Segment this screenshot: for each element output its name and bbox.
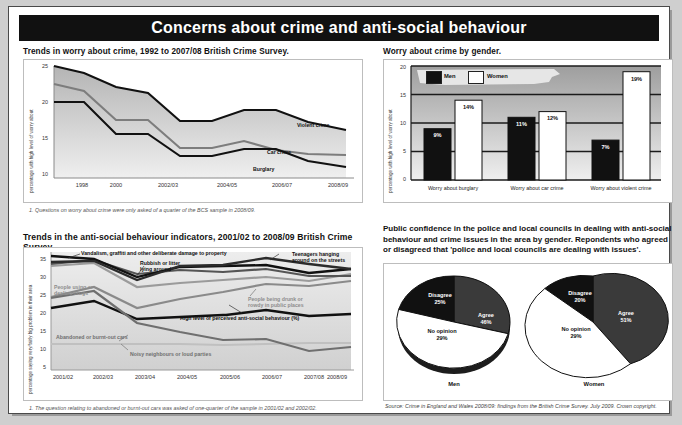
x-tick: 2000	[98, 182, 134, 188]
worry-trends-panel: percentage with high level of worry abou…	[23, 59, 363, 203]
pie-women-disagree-value: 20%	[574, 297, 585, 303]
pie-men-no-opinion-name: No opinion	[427, 328, 456, 334]
worry-trends-footnote: 1. Questions on worry about crime were o…	[29, 207, 359, 213]
series-label-rubbish: Rubbish or litter lying around	[140, 260, 190, 273]
worry-gender-panel: percentage with high level of worry abou…	[383, 59, 673, 203]
series-label-noisy-neighbours: Noisy neighbours or loud parties	[130, 351, 211, 357]
page-title: Concerns about crime and anti-social beh…	[19, 15, 659, 41]
series-label-car-crime: Car crime	[267, 149, 291, 155]
series-label-violent-crime: Violent crime	[297, 122, 329, 128]
infographic-card: Concerns about crime and anti-social beh…	[8, 6, 670, 414]
legend-swatch-women	[468, 71, 484, 84]
category-label-car-crime: Worry about car crime	[492, 185, 582, 191]
pie-men-agree-label: Agree 46%	[462, 312, 510, 326]
pie-women-disagree-name: Disagree	[568, 290, 592, 296]
confidence-source: Source: Crime in England and Wales 2008/…	[385, 403, 675, 409]
series-label-teenagers: Teenagers hanging around on the streets	[292, 251, 358, 264]
pie-women-agree-name: Agree	[618, 310, 634, 316]
pie-women-no-opinion-name: No opinion	[561, 326, 590, 332]
x-tick: 2002/03	[148, 182, 188, 188]
worry-trends-plot	[24, 60, 362, 202]
series-label-drunk-rowdy: People being drunk or rowdy in public pl…	[248, 296, 318, 309]
legend-label-women: Women	[487, 73, 508, 79]
worry-gender-title: Worry about crime by gender.	[383, 47, 673, 56]
legend-label-men: Men	[444, 73, 456, 79]
pie-women-title: Women	[566, 381, 622, 387]
series-label-drugs: People using or dealing drugs	[54, 284, 102, 297]
x-tick: 2008/09	[312, 374, 362, 380]
pie-men-no-opinion-value: 29%	[436, 335, 447, 341]
category-label-violent-crime: Worry about violent crime	[576, 185, 666, 191]
bar-value-women-violent-crime: 19%	[623, 76, 650, 82]
x-tick: 2008/09	[318, 182, 358, 188]
x-tick: 1998	[64, 182, 100, 188]
pie-men-disagree-name: Disagree	[428, 292, 452, 298]
page-title-bar: Concerns about crime and anti-social beh…	[19, 15, 659, 41]
worry-trends-title: Trends in worry about crime, 1992 to 200…	[23, 47, 353, 56]
confidence-description: Public confidence in the police and loca…	[383, 224, 675, 256]
pie-women-no-opinion-value: 29%	[570, 333, 581, 339]
pie-women-disagree-label: Disagree 20%	[552, 290, 608, 304]
confidence-panel: Disagree 25% Agree 46% No opinion 29% Me…	[383, 263, 673, 401]
pie-men-agree-value: 46%	[480, 319, 491, 325]
infographic-page: Concerns about crime and anti-social beh…	[0, 0, 682, 425]
pie-men-no-opinion-label: No opinion 29%	[412, 328, 472, 342]
series-label-vandalism: Vandalism, graffiti and other deliberate…	[81, 250, 227, 256]
series-label-burglary: Burglary	[253, 166, 274, 172]
bar-value-men-burglary: 9%	[424, 132, 451, 138]
pie-men-title: Men	[426, 381, 482, 387]
asb-trends-footnote: 1. The question relating to abandoned or…	[29, 405, 364, 411]
bar-value-women-car-crime: 12%	[539, 115, 566, 121]
bar-value-men-violent-crime: 7%	[592, 144, 619, 150]
legend-swatch-men	[426, 71, 442, 84]
bar-value-men-car-crime: 11%	[508, 121, 535, 127]
bar-value-women-burglary: 14%	[455, 104, 482, 110]
pie-women-no-opinion-label: No opinion 29%	[546, 326, 606, 340]
x-tick: 2004/05	[207, 182, 247, 188]
pie-women-agree-label: Agree 51%	[602, 310, 650, 324]
series-label-high-asb: High level of perceived anti-social beha…	[180, 315, 299, 321]
x-tick: 2006/07	[262, 182, 302, 188]
pie-men-disagree-label: Disagree 25%	[412, 292, 468, 306]
pie-men-agree-name: Agree	[478, 312, 494, 318]
series-label-abandoned-cars: Abandoned or burnt-out cars	[56, 334, 128, 340]
pie-women-agree-value: 51%	[620, 317, 631, 323]
category-label-burglary: Worry about burglary	[408, 185, 498, 191]
pie-men-disagree-value: 25%	[434, 299, 445, 305]
asb-trends-panel: percentage saying very/fairly big proble…	[23, 247, 363, 401]
